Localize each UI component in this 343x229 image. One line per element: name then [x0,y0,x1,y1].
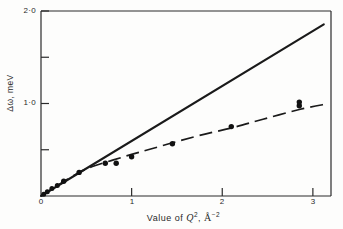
x-axis-title-prefix: Value of [147,213,186,223]
data-point [170,141,175,146]
data-layer [41,24,327,196]
x-tick-label-1: 1 [124,197,140,206]
y-axis-ticks [41,11,49,150]
x-axis-title-unit: Å [204,212,212,223]
data-point [45,189,50,194]
x-axis-title-unit-exponent: −2 [212,211,220,218]
x-axis-ticks [132,188,313,196]
data-point [76,170,81,175]
series-data-markers [41,99,302,196]
y-tick-label-1: 1·0 [12,98,36,107]
data-point [297,99,302,104]
x-tick-label-0: 0 [33,197,49,206]
x-axis-title-symbol: Q [186,212,194,223]
data-point [61,179,66,184]
y-axis-title: Δω, meV [5,59,15,127]
x-tick-label-3: 3 [305,197,321,206]
data-point [114,161,119,166]
data-point [129,154,134,159]
x-axis-title: Value of Q2, Å−2 [41,211,326,223]
data-point [55,183,60,188]
data-point [49,186,54,191]
data-point [229,124,234,129]
data-point [103,161,108,166]
y-tick-label-2: 2·0 [12,6,36,15]
series-dashed-curve [41,104,327,196]
axes-frame [41,11,331,196]
plot-canvas [0,0,343,229]
figure-container: 2·0 1·0 0 1 2 3 Δω, meV Value of Q2, Å−2 [0,0,343,229]
x-tick-label-2: 2 [214,197,230,206]
